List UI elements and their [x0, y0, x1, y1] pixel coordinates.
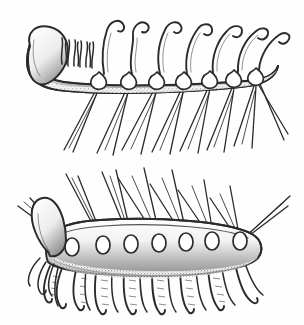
hallucigenia-illustration	[0, 0, 304, 325]
figure-plate	[0, 0, 304, 325]
